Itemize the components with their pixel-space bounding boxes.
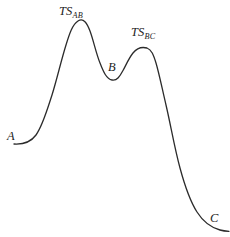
- label-ts-ab-subscript: AB: [73, 11, 83, 20]
- label-ts-bc-subscript: BC: [145, 32, 156, 41]
- label-ts-ab-main: TS: [59, 4, 72, 18]
- chart-background: [0, 0, 230, 237]
- label-state-c: C: [210, 212, 218, 225]
- label-transition-state-bc: TSBC: [131, 26, 155, 39]
- label-state-a: A: [7, 130, 15, 143]
- reaction-energy-profile-figure: A TSAB B TSBC C: [0, 0, 230, 237]
- label-transition-state-ab: TSAB: [59, 5, 83, 18]
- energy-profile-chart: [0, 0, 230, 237]
- label-state-b: B: [108, 61, 116, 74]
- label-ts-bc-main: TS: [131, 25, 144, 39]
